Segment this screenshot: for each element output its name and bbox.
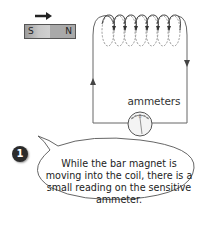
current-arrow-down-icon — [184, 60, 190, 67]
bar-magnet: S N — [24, 24, 76, 39]
caption-text: While the bar magnet is moving into the … — [44, 158, 194, 206]
step-number-badge: 1 — [12, 146, 28, 162]
ammeter-label: ammeters — [119, 95, 189, 107]
coil — [102, 15, 181, 46]
magnet-north-pole: N — [50, 25, 75, 38]
current-arrow-up-icon — [90, 78, 96, 85]
ammeter: 0 — [128, 112, 152, 136]
magnet-south-pole: S — [25, 25, 50, 38]
motion-arrow-icon — [35, 12, 52, 20]
